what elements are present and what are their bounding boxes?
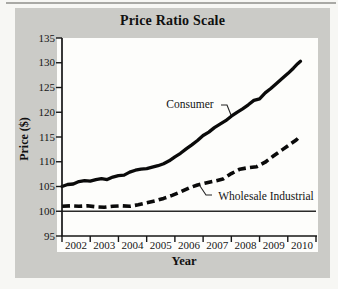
y-tick-label-95: 95 [18,230,55,243]
y-tick-label-105: 105 [18,180,55,193]
x-tick-label-2006: 2006 [174,239,204,252]
x-tick-label-2008: 2008 [230,239,260,252]
x-tick-label-2010: 2010 [287,239,317,252]
page-top-rule [6,2,336,4]
x-tick-label-2009: 2009 [259,239,289,252]
y-tick-label-100: 100 [18,205,55,218]
x-tick-label-2002: 2002 [61,239,91,252]
y-tick-label-115: 115 [18,131,55,144]
y-tick-label-125: 125 [18,81,55,94]
y-tick-label-135: 135 [18,32,55,45]
x-tick-label-2003: 2003 [89,239,119,252]
y-tick-label-120: 120 [18,106,55,119]
page: { "page": { "top_rule_color": "#a9a9a5",… [0,0,338,289]
x-axis-title: Year [172,254,197,269]
x-tick-label-2007: 2007 [202,239,232,252]
y-tick-label-130: 130 [18,56,55,69]
series-label-wholesale-industrial: Wholesale Industrial [218,190,313,202]
plot-area [57,38,318,252]
x-tick-label-2004: 2004 [118,239,148,252]
series-label-consumer: Consumer [166,98,213,110]
x-tick-label-2005: 2005 [146,239,176,252]
chart-title: Price Ratio Scale [15,13,330,29]
y-tick-label-110: 110 [18,155,55,168]
